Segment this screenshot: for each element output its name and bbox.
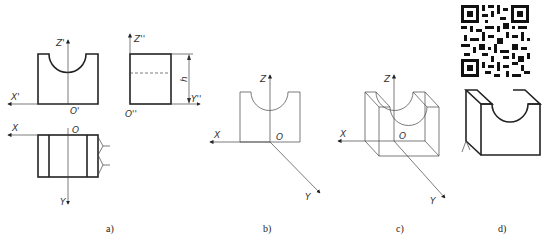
front-view: Z' X' O': [8, 38, 98, 116]
axis-label-x-prime: X': [10, 92, 20, 102]
panel-d: d): [459, 3, 540, 235]
oblique-block-drawing: [462, 90, 540, 155]
caption-b: b): [263, 223, 271, 235]
caption-d: d): [498, 223, 506, 235]
dimension-label-h: h: [179, 76, 189, 82]
axis-label-z-double-prime: Z'': [133, 34, 145, 44]
qr-code-icon[interactable]: [459, 3, 531, 79]
axis-label-x: X: [11, 123, 19, 133]
panel-c: Z X O Y c): [338, 74, 445, 235]
origin-label-o-double-prime: O'': [125, 109, 137, 119]
axis-label-y: Y: [430, 196, 437, 206]
axis-label-x: X: [213, 130, 221, 140]
axis-label-y: Y: [305, 192, 312, 202]
diagram-canvas: Z' X' O' Z'' Y'' O'' h: [0, 0, 546, 242]
axis-label-z-prime: Z': [55, 38, 65, 48]
panel-a: Z' X' O' Z'' Y'' O'' h: [8, 34, 201, 235]
axis-label-y-double-prime: Y'': [191, 94, 201, 104]
axis-label-z: Z: [259, 74, 267, 84]
axis-label-z: Z: [383, 74, 391, 84]
side-view: Z'' Y'' O'' h: [125, 34, 201, 119]
panel-b: Z X O Y b): [210, 74, 320, 235]
origin-label-o: O: [276, 132, 283, 142]
origin-label-o: O: [399, 131, 406, 141]
caption-a: a): [106, 223, 114, 235]
top-view: X O Y: [8, 123, 110, 207]
origin-label-o: O: [72, 125, 79, 135]
axis-label-x: X: [339, 129, 347, 139]
origin-label-o-prime: O': [70, 106, 80, 116]
caption-c: c): [396, 223, 404, 235]
axis-label-y: Y: [60, 197, 67, 207]
